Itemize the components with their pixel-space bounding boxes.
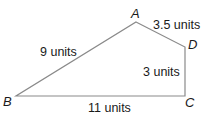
side-label-ab: 9 units [40, 45, 77, 59]
vertex-label-a: A [130, 6, 140, 21]
side-label-bc: 11 units [88, 101, 131, 115]
diagram-stage: A B C D 9 units 3.5 units 3 units 11 uni… [0, 0, 207, 123]
vertex-label-c: C [185, 95, 195, 110]
vertex-label-d: D [188, 37, 197, 52]
vertex-label-b: B [3, 94, 12, 109]
side-label-dc: 3 units [143, 65, 180, 79]
quadrilateral-diagram: A B C D 9 units 3.5 units 3 units 11 uni… [0, 0, 207, 123]
quadrilateral-abcd [16, 22, 185, 96]
side-label-ad: 3.5 units [153, 18, 200, 32]
